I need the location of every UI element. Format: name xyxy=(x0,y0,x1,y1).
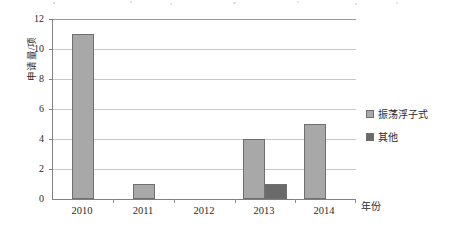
x-tick-mark-1 xyxy=(113,199,114,203)
x-tick-mark-5 xyxy=(355,199,356,203)
bar-chart: 申请量/项 12 10 8 6 4 2 0 xyxy=(0,0,451,236)
plot-area xyxy=(52,19,355,200)
bar-2014-oscillating-buoy[interactable] xyxy=(304,124,326,199)
bar-2011-oscillating-buoy[interactable] xyxy=(133,184,155,199)
y-tick-label-6: 6 xyxy=(14,104,44,114)
legend-swatch-icon-oscillating-buoy xyxy=(366,110,374,118)
y-tick-label-4: 4 xyxy=(14,134,44,144)
y-tick-label-10: 10 xyxy=(14,44,44,54)
chart-legend: 振荡浮子式 其他 xyxy=(366,108,450,154)
bar-2013-oscillating-buoy[interactable] xyxy=(243,139,265,199)
bar-2013-other[interactable] xyxy=(265,184,287,199)
y-axis-title: 申请量/项 xyxy=(24,20,38,98)
x-tick-label-2014: 2014 xyxy=(294,205,354,216)
bar-series-group xyxy=(53,19,356,199)
x-tick-mark-4 xyxy=(295,199,296,203)
x-tick-mark-3 xyxy=(235,199,236,203)
legend-item-oscillating-buoy[interactable]: 振荡浮子式 xyxy=(366,108,450,120)
x-tick-label-2013: 2013 xyxy=(234,205,294,216)
x-tick-label-2010: 2010 xyxy=(52,205,112,216)
legend-swatch-icon-other xyxy=(366,133,374,141)
x-axis-title: 年份 xyxy=(361,198,381,213)
x-tick-label-2011: 2011 xyxy=(113,205,173,216)
y-tick-label-2: 2 xyxy=(14,164,44,174)
x-tick-label-2012: 2012 xyxy=(174,205,234,216)
legend-label-other: 其他 xyxy=(378,132,398,143)
y-tick-label-0: 0 xyxy=(14,194,44,204)
legend-label-oscillating-buoy: 振荡浮子式 xyxy=(378,109,428,120)
y-tick-label-8: 8 xyxy=(14,74,44,84)
x-tick-mark-2 xyxy=(174,199,175,203)
bar-2010-oscillating-buoy[interactable] xyxy=(72,34,94,199)
legend-item-other[interactable]: 其他 xyxy=(366,131,450,143)
y-tick-label-12: 12 xyxy=(14,14,44,24)
